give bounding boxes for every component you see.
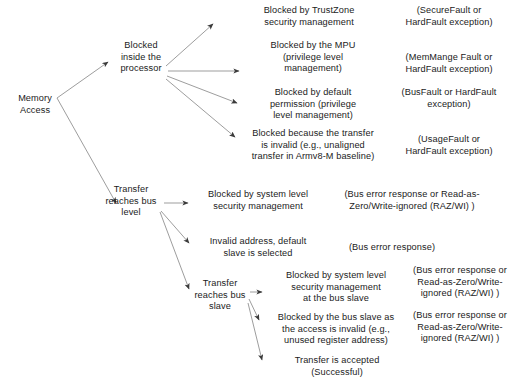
outcome-slave-invalid-bus-error-or-razwi: (Bus error response or Read-as-Zero/Writ… (406, 310, 514, 345)
node-memory-access: Memory Access (4, 93, 66, 116)
edge-processor-to-default-permission (167, 76, 237, 103)
leaf-blocked-by-trustzone: Blocked by TrustZone security management (234, 5, 384, 28)
leaf-blocked-system-level-security-at-slave: Blocked by system level security managem… (266, 270, 406, 305)
leaf-blocked-by-mpu: Blocked by the MPU (privilege level mana… (246, 40, 380, 75)
edge-processor-to-trustzone (166, 24, 213, 66)
edge-processor-to-invalid-transfer (166, 79, 235, 137)
outcome-usagefault: (UsageFault or HardFault exception) (386, 134, 512, 157)
outcome-slave-bus-error-or-razwi: (Bus error response or Read-as-Zero/Writ… (406, 265, 514, 300)
node-blocked-inside-processor: Blocked inside the processor (112, 40, 170, 75)
outcome-securefault: (SecureFault or HardFault exception) (386, 5, 512, 28)
outcome-bus-error-response: (Bus error response) (318, 242, 466, 254)
outcome-bus-error-or-razwi: (Bus error response or Read-as- Zero/Wri… (312, 189, 512, 212)
leaf-transfer-accepted: Transfer is accepted (Successful) (272, 355, 402, 378)
node-transfer-reaches-bus-slave: Transfer reaches bus slave (190, 278, 250, 313)
leaf-blocked-invalid-transfer: Blocked because the transfer is invalid … (234, 128, 392, 163)
edge-bus-level-to-bus-slave (160, 212, 189, 289)
memory-access-flow-diagram: Memory Access Blocked inside the process… (0, 0, 515, 389)
outcome-memmanage-fault: (MemMange Fault or HardFault exception) (386, 52, 512, 75)
leaf-blocked-by-bus-slave-invalid-access: Blocked by the bus slave as the access i… (262, 312, 410, 347)
leaf-invalid-address-default-slave: Invalid address, default slave is select… (194, 236, 322, 259)
outcome-busfault: (BusFault or HardFault exception) (386, 87, 512, 110)
leaf-blocked-system-level-security: Blocked by system level security managem… (194, 189, 322, 212)
leaf-blocked-by-default-permission: Blocked by default permission (privilege… (246, 87, 380, 122)
edge-bus-slave-to-slave-invalid (249, 299, 259, 320)
node-transfer-reaches-bus-level: Transfer reaches bus level (100, 184, 162, 219)
